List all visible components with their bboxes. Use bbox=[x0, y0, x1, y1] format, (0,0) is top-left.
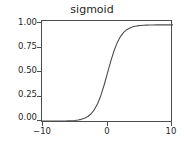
x-tick-label: 10 bbox=[151, 126, 184, 136]
y-tick-label: 0.75 bbox=[7, 42, 37, 51]
y-tick-label: 0.50 bbox=[7, 66, 37, 75]
y-tick-label: 1.00 bbox=[7, 18, 37, 27]
x-tick-label: −10 bbox=[22, 126, 62, 136]
x-tick-label: 0 bbox=[87, 126, 127, 136]
plot-area bbox=[41, 20, 172, 122]
figure-canvas: sigmoid 1.00 0.75 0.50 0.25 0.00 −10 0 1… bbox=[0, 0, 184, 153]
x-axis-tick-labels: −10 0 10 bbox=[0, 126, 184, 140]
sigmoid-curve-svg bbox=[42, 21, 173, 123]
sigmoid-curve-line bbox=[42, 25, 173, 121]
y-tick-label: 0.00 bbox=[7, 113, 37, 122]
y-tick-label: 0.25 bbox=[7, 90, 37, 99]
